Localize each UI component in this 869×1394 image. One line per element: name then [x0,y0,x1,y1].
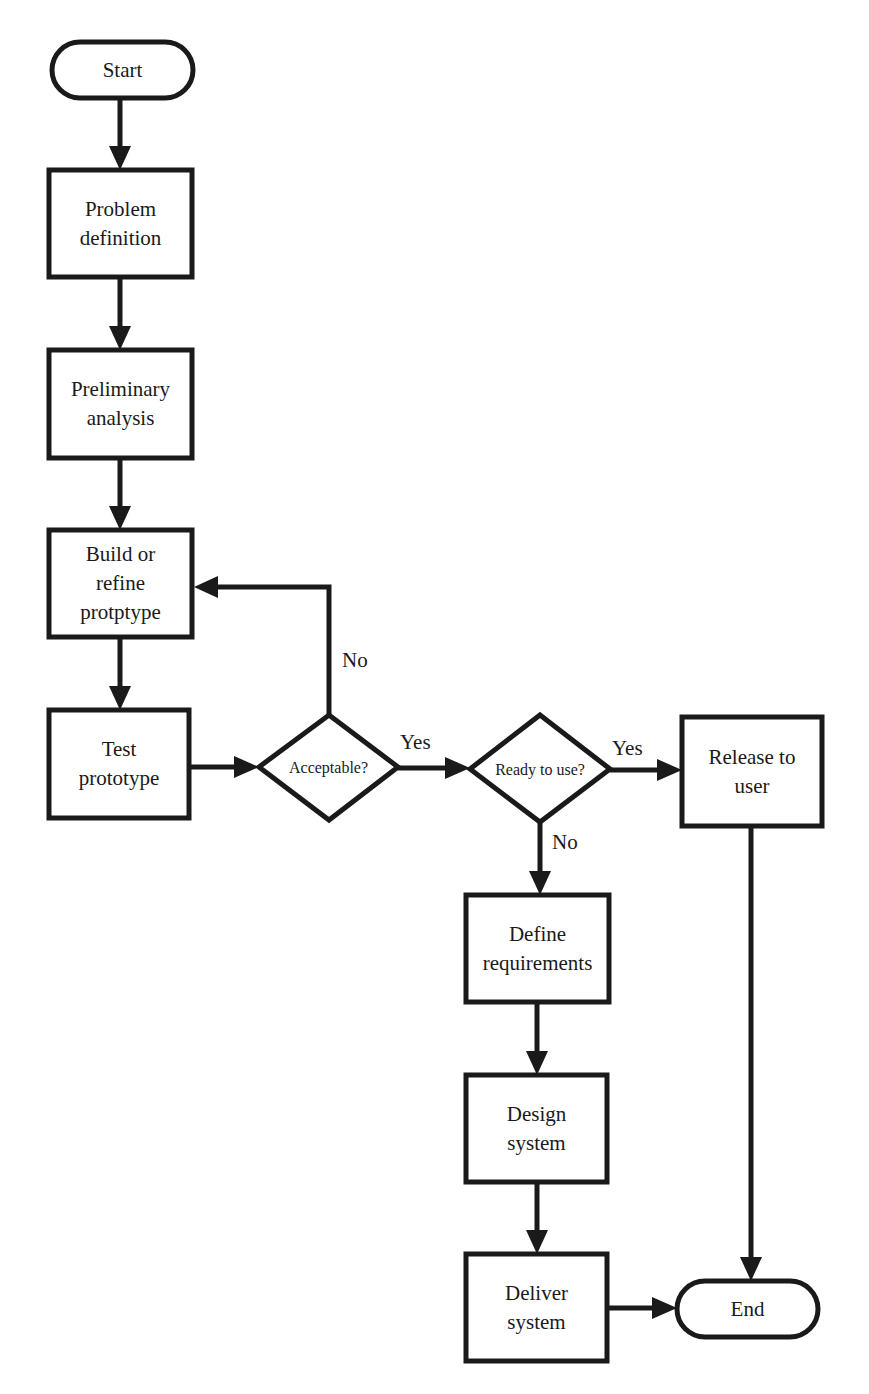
ready-yes-label: Yes [612,736,643,761]
ready-no-label: No [552,830,578,855]
acceptable-yes-label: Yes [400,730,431,755]
arrow-acceptable-no-loop [216,587,329,715]
arrowheads [109,146,762,1319]
start-label: Start [52,42,193,98]
preliminary-analysis-label: Preliminary analysis [49,350,192,458]
test-prototype-label: Test prototype [49,710,189,818]
acceptable-label: Acceptable? [259,715,398,820]
define-requirements-label: Define requirements [466,895,609,1002]
build-prototype-label: Build or refine protptype [49,530,192,637]
design-system-label: Design system [466,1075,607,1182]
end-label: End [677,1281,818,1337]
release-label: Release to user [682,717,822,826]
deliver-system-label: Deliver system [466,1254,607,1361]
ready-label: Ready to use? [470,717,610,822]
acceptable-no-label: No [342,648,368,673]
problem-definition-label: Problem definition [49,170,192,277]
